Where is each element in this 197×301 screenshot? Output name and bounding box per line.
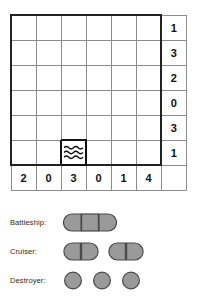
destroyer-icon: [121, 271, 141, 290]
grid-cell-r3c0[interactable]: [11, 90, 36, 115]
water-icon: [63, 142, 84, 163]
legend-label-battleship: Battleship:: [10, 218, 58, 227]
destroyer-icon: [63, 271, 83, 290]
legend-pieces-cruiser: [63, 242, 144, 261]
grid-cell-r1c5[interactable]: [136, 40, 161, 65]
cruiser-icon: [108, 242, 144, 261]
grid-cell-r3c4[interactable]: [111, 90, 136, 115]
legend-label-cruiser: Cruiser:: [10, 247, 58, 256]
fleet-legend: Battleship: Cruiser:: [10, 208, 190, 295]
grid-cell-r2c4[interactable]: [111, 65, 136, 90]
legend-label-destroyer: Destroyer:: [10, 276, 58, 285]
grid-cell-r1c2[interactable]: [61, 40, 86, 65]
grid-cell-r4c4[interactable]: [111, 115, 136, 140]
legend-row-cruiser: Cruiser:: [10, 237, 190, 266]
row-clue-2: 2: [161, 65, 186, 90]
grid-cell-r5c5[interactable]: [136, 140, 161, 165]
grid-cell-r0c4[interactable]: [111, 15, 136, 40]
grid-row: 3: [11, 40, 186, 65]
grid-cell-r0c0[interactable]: [11, 15, 36, 40]
legend-pieces-battleship: [63, 213, 117, 232]
col-clue-0: 2: [11, 165, 36, 190]
grid-cell-r0c2[interactable]: [61, 15, 86, 40]
battleship-puzzle: 1 3 2: [10, 14, 187, 191]
grid-cell-r3c3[interactable]: [86, 90, 111, 115]
destroyer-icon: [92, 271, 112, 290]
row-clue-4: 3: [161, 115, 186, 140]
grid-cell-r4c0[interactable]: [11, 115, 36, 140]
row-clue-5: 1: [161, 140, 186, 165]
grid-corner-spacer: [161, 165, 186, 190]
grid-cell-r1c3[interactable]: [86, 40, 111, 65]
row-clue-1: 3: [161, 40, 186, 65]
grid-cell-r2c5[interactable]: [136, 65, 161, 90]
battleship-icon: [63, 213, 117, 232]
col-clue-4: 1: [111, 165, 136, 190]
grid-cell-r4c2[interactable]: [61, 115, 86, 140]
legend-row-destroyer: Destroyer:: [10, 266, 190, 295]
legend-pieces-destroyer: [63, 271, 141, 290]
legend-row-battleship: Battleship:: [10, 208, 190, 237]
col-clue-3: 0: [86, 165, 111, 190]
grid-row: 1: [11, 140, 186, 165]
grid-cell-r1c1[interactable]: [36, 40, 61, 65]
col-clue-5: 4: [136, 165, 161, 190]
grid-cell-r3c2[interactable]: [61, 90, 86, 115]
grid-cell-r4c5[interactable]: [136, 115, 161, 140]
grid-cell-r4c3[interactable]: [86, 115, 111, 140]
grid-cell-r3c5[interactable]: [136, 90, 161, 115]
grid-cell-r2c3[interactable]: [86, 65, 111, 90]
grid-row: 0: [11, 90, 186, 115]
row-clue-3: 0: [161, 90, 186, 115]
grid-cell-r5c4[interactable]: [111, 140, 136, 165]
col-clue-1: 0: [36, 165, 61, 190]
col-clue-2: 3: [61, 165, 86, 190]
grid-cell-r0c5[interactable]: [136, 15, 161, 40]
grid-cell-r2c2[interactable]: [61, 65, 86, 90]
grid-cell-r1c0[interactable]: [11, 40, 36, 65]
grid-clue-row: 2 0 3 0 1 4: [11, 165, 186, 190]
grid-cell-r5c2-water[interactable]: [61, 140, 86, 165]
grid-cell-r2c0[interactable]: [11, 65, 36, 90]
grid-cell-r4c1[interactable]: [36, 115, 61, 140]
grid-cell-r3c1[interactable]: [36, 90, 61, 115]
grid-cell-r0c3[interactable]: [86, 15, 111, 40]
grid-cell-r0c1[interactable]: [36, 15, 61, 40]
grid-row: 1: [11, 15, 186, 40]
grid-cell-r5c3[interactable]: [86, 140, 111, 165]
grid-cell-r5c1[interactable]: [36, 140, 61, 165]
puzzle-grid: 1 3 2: [10, 14, 187, 191]
grid-cell-r1c4[interactable]: [111, 40, 136, 65]
grid-row: 3: [11, 115, 186, 140]
row-clue-0: 1: [161, 15, 186, 40]
grid-cell-r2c1[interactable]: [36, 65, 61, 90]
grid-cell-r5c0[interactable]: [11, 140, 36, 165]
grid-row: 2: [11, 65, 186, 90]
cruiser-icon: [63, 242, 99, 261]
